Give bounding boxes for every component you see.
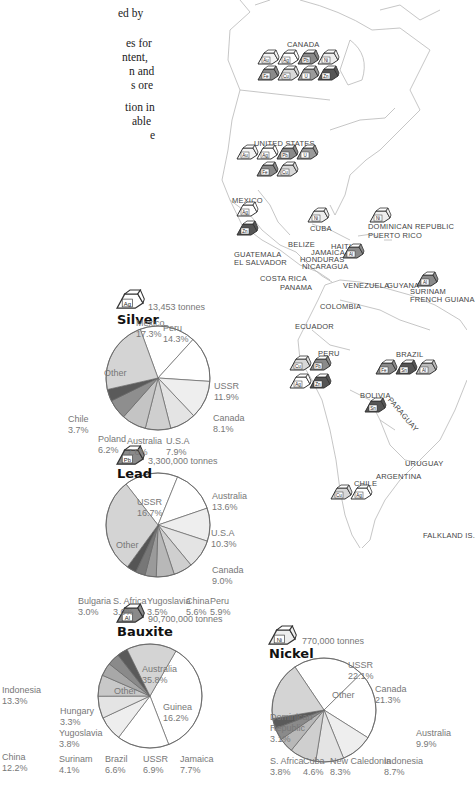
svg-text:Ni: Ni (277, 637, 283, 643)
pie-label-nickel: S. Africa 3.8% (270, 756, 304, 778)
pie-label-nickel: Cuba 4.6% (303, 756, 325, 778)
chart-title-bauxite: Bauxite (117, 624, 173, 639)
pie-label-lead: Canada 9.0% (212, 565, 244, 587)
pie-label-silver: Canada 8.1% (213, 413, 245, 435)
pie-label-bauxite: Guinea 16.2% (163, 702, 192, 724)
pie-label-silver: Chile 3.7% (68, 414, 89, 436)
mineral-block-icon: Ag (117, 290, 144, 308)
pie-label-nickel: New Caledonia 8.3% (330, 756, 391, 778)
pie-label-lead: Peru 5.9% (210, 596, 231, 618)
pie-label-nickel: Canada 21.3% (375, 684, 407, 706)
pie-label-lead: Australia 13.6% (212, 491, 247, 513)
chart-tonnes-nickel: 770,000 tonnes (302, 636, 364, 646)
pie-label-bauxite: Surinam 4.1% (59, 754, 93, 776)
pie-label-bauxite: Yugoslavia 3.8% (59, 728, 103, 750)
pie-label-cropped: Indonesia 13.3% (2, 685, 41, 707)
chart-title-nickel: Nickel (269, 646, 314, 661)
pie-label-nickel: Dominican Republic 3.1% (270, 712, 313, 745)
pie-label-bauxite: Brazil 6.6% (105, 754, 128, 776)
mineral-block-icon: Ni (269, 626, 296, 644)
pie-label-silver: U.S.A 7.9% (166, 436, 190, 458)
pie-label-lead: USSR 16.7% (137, 497, 163, 519)
pie-label-nickel: Australia 9.9% (416, 728, 451, 750)
pie-label-bauxite: Hungary 3.3% (60, 706, 94, 728)
pie-label-bauxite: Australia 35.8% (142, 664, 177, 686)
pie-label-lead: U.S.A 10.3% (211, 528, 237, 550)
svg-text:Ag: Ag (124, 301, 131, 307)
pie-label-bauxite: Jamaica 7.7% (180, 754, 214, 776)
pie-label-lead: S. Africa 3.0% (113, 596, 147, 618)
pie-label-lead: Other (116, 540, 139, 551)
pie-label-lead: Bulgaria 3.0% (78, 596, 111, 618)
pie-label-silver: USSR 11.9% (214, 381, 239, 403)
pie-label-silver: Australia 7.6% (127, 436, 162, 458)
pie-label-silver: Poland 6.2% (98, 434, 126, 456)
pie-label-nickel: USSR 22.1% (348, 660, 374, 682)
chart-tonnes-silver: 13,453 tonnes (148, 302, 205, 312)
pie-label-nickel: Other (332, 690, 355, 701)
pie-label-lead: Yugoslavia 3.5% (147, 596, 191, 618)
pie-label-bauxite: Other (114, 686, 137, 697)
pie-label-cropped: China 12.2% (2, 752, 28, 774)
pie-label-silver: Mexico 17.3% (136, 318, 165, 340)
pie-label-silver: Other (104, 368, 127, 379)
pie-label-silver: Peru 14.3% (163, 323, 189, 345)
chart-title-lead: Lead (117, 466, 152, 481)
pie-label-bauxite: USSR 6.9% (143, 754, 168, 776)
